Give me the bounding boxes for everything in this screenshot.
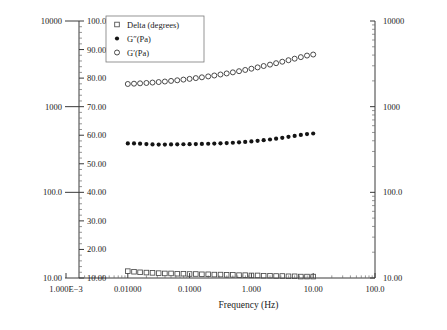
data-point — [249, 139, 253, 143]
right-tick-label: 10.00 — [383, 273, 402, 283]
left-inner-tick-label: 100.0 — [87, 16, 106, 26]
data-point — [175, 78, 180, 83]
data-point — [212, 73, 217, 78]
data-point — [256, 139, 260, 143]
data-point — [255, 65, 260, 70]
data-point — [169, 78, 174, 83]
data-point — [181, 271, 186, 276]
chart-canvas: 1.000E−30.010000.10001.00010.00100.0Freq… — [0, 0, 447, 330]
data-point — [138, 270, 143, 275]
data-point — [212, 272, 217, 277]
data-point — [292, 56, 297, 61]
data-point — [311, 131, 315, 135]
data-point — [243, 140, 247, 144]
data-point — [144, 270, 149, 275]
data-point — [225, 141, 229, 145]
x-tick-label: 0.01000 — [114, 284, 142, 294]
data-point — [274, 137, 278, 141]
left-inner-tick-label: 90.00 — [87, 45, 106, 55]
legend: Delta (degrees)G″(Pa)G′(Pa) — [106, 16, 204, 62]
data-point — [181, 77, 186, 82]
series-open-square — [126, 269, 316, 279]
x-axis-title: Frequency (Hz) — [219, 300, 279, 311]
data-point — [194, 142, 198, 146]
data-point — [175, 271, 180, 276]
data-point — [175, 142, 179, 146]
series-filled-circle — [126, 131, 316, 146]
left-inner-tick-label: 10.00 — [87, 273, 106, 283]
left-inner-tick-label: 70.00 — [87, 102, 106, 112]
data-point — [293, 134, 297, 138]
data-point — [138, 81, 143, 86]
data-point — [243, 67, 248, 72]
chart-figure: 1.000E−30.010000.10001.00010.00100.0Freq… — [0, 0, 447, 330]
right-tick-label: 100.0 — [383, 187, 402, 197]
left-inner-tick-label: 80.00 — [87, 73, 106, 83]
left-outer-tick-label: 1000 — [45, 102, 62, 112]
data-point — [262, 138, 266, 142]
data-point — [237, 140, 241, 144]
data-point — [157, 142, 161, 146]
legend-label: Delta (degrees) — [127, 20, 179, 30]
data-point — [156, 271, 161, 276]
data-point — [218, 72, 223, 77]
data-point — [169, 142, 173, 146]
left-inner-tick-label: 50.00 — [87, 159, 106, 169]
left-inner-tick-label: 30.00 — [87, 216, 106, 226]
data-point — [200, 272, 205, 277]
left-inner-tick-label: 60.00 — [87, 130, 106, 140]
data-point — [224, 71, 229, 76]
legend-label: G′(Pa) — [127, 48, 149, 58]
data-point — [156, 80, 161, 85]
data-point — [132, 141, 136, 145]
data-point — [162, 79, 167, 84]
data-point — [150, 142, 154, 146]
data-point — [237, 69, 242, 74]
data-point — [193, 76, 198, 81]
data-point — [286, 58, 291, 63]
data-point — [126, 141, 130, 145]
data-point — [144, 142, 148, 146]
legend-label: G″(Pa) — [127, 34, 151, 44]
data-point — [230, 70, 235, 75]
left-inner-tick-label: 40.00 — [87, 187, 106, 197]
data-point — [200, 142, 204, 146]
data-point — [126, 269, 131, 274]
left-outer-tick-label: 10000 — [41, 16, 62, 26]
data-point — [163, 142, 167, 146]
data-point — [150, 80, 155, 85]
data-point — [181, 142, 185, 146]
data-point — [169, 271, 174, 276]
data-point — [274, 61, 279, 66]
data-point — [280, 136, 284, 140]
data-point — [218, 141, 222, 145]
data-point — [280, 59, 285, 64]
x-tick-label: 10.00 — [304, 284, 323, 294]
data-point — [268, 62, 273, 67]
data-point — [188, 142, 192, 146]
data-point — [199, 75, 204, 80]
data-point — [305, 132, 309, 136]
data-point — [194, 272, 199, 277]
data-point — [249, 66, 254, 71]
data-point — [212, 141, 216, 145]
data-point — [261, 64, 266, 69]
data-point — [286, 135, 290, 139]
data-point — [231, 141, 235, 145]
right-tick-label: 10000 — [383, 16, 404, 26]
data-point — [187, 76, 192, 81]
data-point — [255, 273, 260, 278]
legend-marker-filled-circle — [115, 36, 119, 40]
data-point — [299, 133, 303, 137]
data-point — [298, 55, 303, 60]
x-tick-label: 1.000 — [242, 284, 261, 294]
x-tick-label: 0.1000 — [178, 284, 201, 294]
data-point — [305, 53, 310, 58]
data-point — [125, 81, 130, 86]
left-inner-tick-label: 20.00 — [87, 244, 106, 254]
data-point — [311, 52, 316, 57]
left-outer-tick-label: 10.00 — [43, 273, 62, 283]
data-point — [268, 137, 272, 141]
data-point — [132, 81, 137, 86]
data-point — [261, 273, 266, 278]
